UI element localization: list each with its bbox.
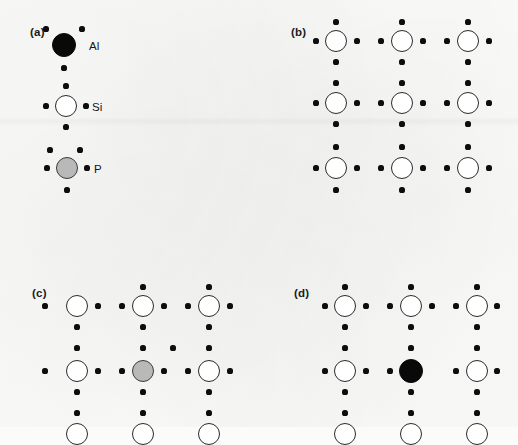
valence-electron-dot — [363, 368, 368, 373]
valence-electron-dot — [322, 303, 327, 308]
atom-si — [466, 295, 488, 317]
valence-electron-dot — [322, 368, 327, 373]
valence-electron-dot — [429, 303, 434, 308]
valence-electron-dot — [453, 368, 458, 373]
valence-electron-dot — [408, 389, 413, 394]
valence-electron-dot — [342, 324, 347, 329]
valence-electron-dot — [408, 284, 413, 289]
valence-electron-dot — [342, 284, 347, 289]
valence-electron-dot — [342, 410, 347, 415]
atom-si — [400, 295, 422, 317]
atom-si — [334, 423, 356, 445]
valence-electron-dot — [474, 284, 479, 289]
atom-si — [466, 360, 488, 382]
valence-electron-dot — [387, 368, 392, 373]
valence-electron-dot — [474, 389, 479, 394]
valence-electron-dot — [408, 324, 413, 329]
valence-electron-dot — [453, 303, 458, 308]
valence-electron-dot — [408, 410, 413, 415]
valence-electron-dot — [494, 368, 499, 373]
atom-al — [399, 359, 423, 383]
panel-label-d: (d) — [294, 287, 309, 299]
atom-si — [334, 295, 356, 317]
valence-electron-dot — [363, 303, 368, 308]
atom-si — [334, 360, 356, 382]
valence-electron-dot — [408, 345, 413, 350]
valence-electron-dot — [387, 303, 392, 308]
valence-electron-dot — [494, 303, 499, 308]
valence-electron-dot — [474, 410, 479, 415]
valence-electron-dot — [342, 345, 347, 350]
atom-si — [466, 423, 488, 445]
valence-electron-dot — [342, 389, 347, 394]
valence-electron-dot — [474, 324, 479, 329]
atom-si — [400, 423, 422, 445]
valence-electron-dot — [474, 345, 479, 350]
